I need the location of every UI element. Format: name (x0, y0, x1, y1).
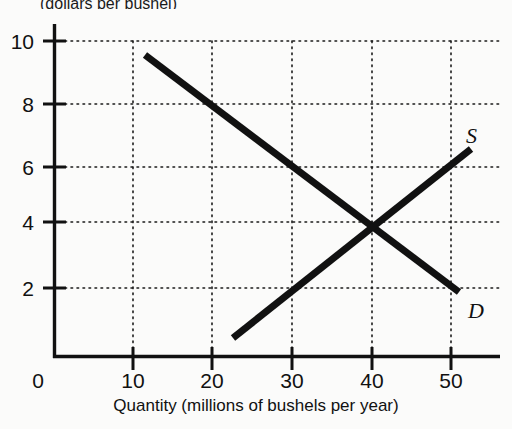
x-tick-label-10: 10 (121, 369, 144, 392)
x-axis-title: Quantity (millions of bushels per year) (0, 396, 512, 416)
x-tick-label-50: 50 (439, 369, 462, 392)
y-tick-label-10: 10 (11, 30, 34, 53)
tick-marks (43, 41, 451, 370)
gridlines (53, 41, 500, 357)
demand-curve-label: D (467, 298, 484, 323)
origin-label: 0 (32, 369, 44, 392)
x-tick-labels: 0 10 20 30 40 50 (32, 369, 463, 392)
chart-canvas: 10 8 6 4 2 0 10 20 30 40 50 S D (0, 0, 512, 429)
data-curves (145, 55, 471, 338)
y-tick-label-4: 4 (22, 211, 34, 234)
y-tick-label-8: 8 (22, 93, 34, 116)
y-tick-label-2: 2 (22, 277, 34, 300)
supply-demand-chart: (dollars per bushel) (0, 0, 512, 429)
y-tick-label-6: 6 (22, 156, 34, 179)
x-tick-label-30: 30 (280, 369, 303, 392)
demand-curve (145, 55, 459, 292)
x-tick-label-40: 40 (360, 369, 383, 392)
x-tick-label-20: 20 (200, 369, 223, 392)
supply-curve (233, 149, 471, 338)
y-tick-labels: 10 8 6 4 2 (11, 30, 35, 300)
supply-curve-label: S (466, 123, 477, 148)
